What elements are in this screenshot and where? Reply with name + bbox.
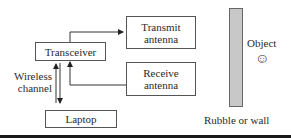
wall-label: Rubble or wall [204, 114, 269, 126]
bottom-divider [0, 135, 291, 138]
smiley-face-icon: ☺ [255, 52, 269, 66]
transmit-antenna-label-1: Transmit [141, 21, 180, 33]
receive-antenna-box: Receive antenna [126, 62, 196, 96]
transceiver-label: Transceiver [45, 46, 97, 58]
wireless-label-2: channel [4, 82, 52, 94]
laptop-box: Laptop [45, 110, 117, 128]
wireless-channel-label: Wireless channel [4, 70, 52, 94]
transceiver-box: Transceiver [35, 42, 106, 61]
rubble-wall [229, 8, 243, 107]
receive-antenna-label-2: antenna [144, 79, 178, 91]
laptop-label: Laptop [65, 113, 96, 125]
wireless-label-1: Wireless [4, 70, 52, 82]
transmit-antenna-label-2: antenna [144, 33, 178, 45]
receive-antenna-label-1: Receive [143, 67, 178, 79]
object-label: Object [247, 37, 276, 49]
transmit-antenna-box: Transmit antenna [126, 16, 196, 49]
